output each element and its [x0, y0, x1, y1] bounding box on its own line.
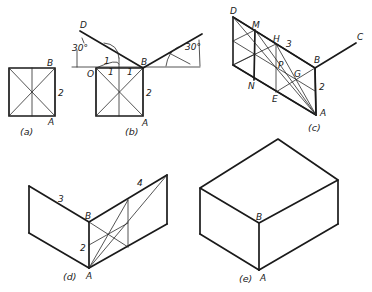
label-dim: 2: [58, 88, 64, 98]
label-a: A: [319, 108, 326, 118]
label-b: B: [47, 58, 53, 68]
panel-d: 3 4 B 2 A (d): [29, 175, 167, 282]
panel-e: B A (e): [200, 139, 338, 284]
caption-b: (b): [125, 126, 138, 137]
label-angle-right: 30°: [185, 42, 201, 52]
label-dim2: 2: [319, 82, 325, 92]
label-dim2: 2: [80, 243, 86, 253]
caption-d: (d): [63, 271, 76, 282]
label-dim3: 3: [286, 39, 292, 49]
label-a: A: [47, 117, 54, 127]
caption-c: (c): [308, 122, 321, 133]
label-p: P: [278, 60, 284, 70]
label-h: H: [273, 34, 280, 44]
label-unit3: 1: [127, 67, 133, 77]
label-e: E: [272, 94, 278, 104]
label-b: B: [141, 57, 147, 67]
label-angle-left: 30°: [72, 43, 88, 53]
panel-a: B 2 A (a): [9, 58, 64, 137]
label-dim4: 4: [137, 178, 143, 188]
isometric-construction-figure: B 2 A (a) D 30° 30° O 1 1 1 B 2 A (b): [0, 0, 372, 292]
label-d: D: [230, 6, 237, 16]
panel-c: D M H 3 B C P G N E 2 A (c): [230, 6, 364, 133]
label-unit1: 1: [104, 56, 110, 66]
caption-e: (e): [239, 273, 252, 284]
caption-a: (a): [20, 126, 33, 137]
label-a: A: [141, 118, 148, 128]
label-m: M: [252, 20, 260, 30]
panel-b: D 30° 30° O 1 1 1 B 2 A (b): [72, 20, 202, 137]
label-d: D: [80, 20, 87, 30]
label-g: G: [294, 69, 301, 79]
label-dim3: 3: [58, 194, 64, 204]
label-b: B: [85, 211, 91, 221]
label-a: A: [259, 273, 266, 283]
label-b: B: [314, 55, 320, 65]
label-n: N: [248, 81, 255, 91]
label-b: B: [256, 212, 262, 222]
label-c: C: [357, 32, 364, 42]
label-o: O: [87, 69, 94, 79]
label-unit2: 1: [108, 67, 114, 77]
label-dim: 2: [146, 88, 152, 98]
label-a: A: [85, 271, 92, 281]
